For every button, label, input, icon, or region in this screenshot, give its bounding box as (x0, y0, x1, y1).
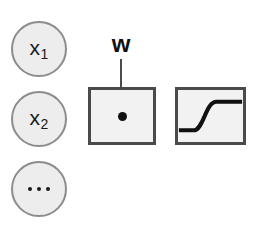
weight-lead-line (120, 59, 122, 88)
sigmoid-curve-icon (178, 90, 243, 142)
input-node-x1: x1 (11, 21, 67, 77)
ellipsis-dot (28, 187, 32, 191)
input-node-x2: x2 (11, 91, 67, 147)
dot-product-icon (118, 112, 127, 121)
input-node-x2-label: x2 (30, 107, 49, 131)
neuron-diagram: x1 x2 w (0, 0, 256, 233)
input-node-x1-label: x1 (30, 37, 49, 61)
ellipsis-icon (28, 187, 50, 191)
ellipsis-dot (46, 187, 50, 191)
weighted-sum-box (88, 87, 156, 145)
input-node-ellipsis (11, 161, 67, 217)
weight-label: w (104, 32, 138, 56)
ellipsis-dot (37, 187, 41, 191)
activation-function-box (175, 87, 246, 145)
